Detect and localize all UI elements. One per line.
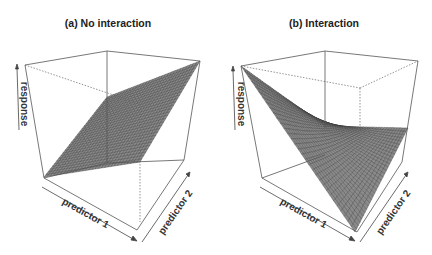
axis-label-predictor-1: predictor 1 xyxy=(278,196,329,231)
response-surface-b xyxy=(241,66,408,232)
surface-plot-a: response predictor 1 predictor 2 xyxy=(0,0,216,255)
axis-label-response: response xyxy=(19,82,30,127)
panel-no-interaction: (a) No interaction respons xyxy=(0,0,216,255)
axis-label-predictor-2: predictor 2 xyxy=(156,187,195,236)
axis-label-predictor-2: predictor 2 xyxy=(374,187,413,236)
panel-interaction: (b) Interaction response predictor 1 pre… xyxy=(216,0,432,255)
axis-label-predictor-1: predictor 1 xyxy=(60,196,111,231)
axis-label-response: response xyxy=(236,82,247,127)
surface-plot-b: response predictor 1 predictor 2 xyxy=(216,0,432,255)
response-surface-a xyxy=(44,61,200,177)
